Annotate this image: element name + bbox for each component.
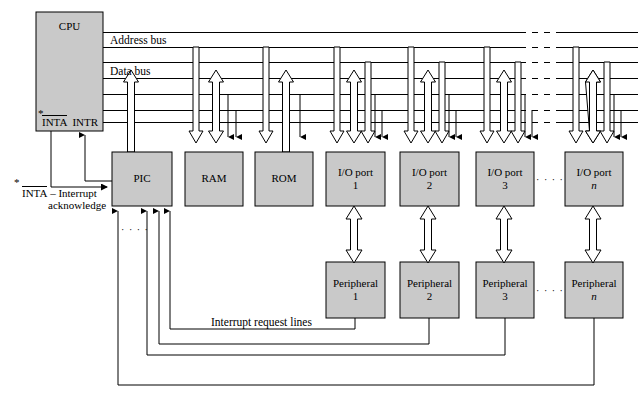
cpu-pin-labels: INTAINTR <box>42 115 98 128</box>
cpu-box <box>36 12 103 131</box>
cpu-pin-inta: INTA <box>42 115 67 128</box>
io-port-3-box <box>476 152 534 206</box>
rom-box <box>255 152 313 206</box>
data-bus-label: Data bus <box>110 65 151 77</box>
interrupt-request-lines-label: Interrupt request lines <box>211 316 312 328</box>
peripheral-n-box <box>565 262 623 318</box>
io-peripheral-link-group <box>346 206 601 263</box>
io-port-1-box <box>326 152 385 206</box>
footnote-dash-text: – Interrupt <box>50 187 97 199</box>
footnote-text: INTA – Interrupt <box>22 186 97 200</box>
cpu-pin-intr: INTR <box>72 116 98 128</box>
cpu-inta-asterisk: * <box>38 107 44 119</box>
peripheral-2-box <box>400 262 459 318</box>
address-bus-label: Address bus <box>110 34 167 46</box>
ram-box <box>185 152 243 206</box>
footnote-asterisk: * <box>14 176 20 188</box>
block-boxes-group <box>36 12 623 318</box>
diagram-canvas: CPU INTAINTR * Address bus Data bus PIC … <box>0 0 638 397</box>
footnote-second-line: acknowledge <box>48 199 106 212</box>
pic-box <box>112 152 172 206</box>
io-port-2-box <box>400 152 459 206</box>
footnote-inta-signal: INTA <box>22 186 47 199</box>
hollow-bus-arrows-group <box>124 47 615 152</box>
peripheral-1-box <box>326 262 385 318</box>
io-port-n-box <box>565 152 623 206</box>
cpu-pic-interrupt-wiring <box>51 131 112 187</box>
peripheral-3-box <box>476 262 534 318</box>
